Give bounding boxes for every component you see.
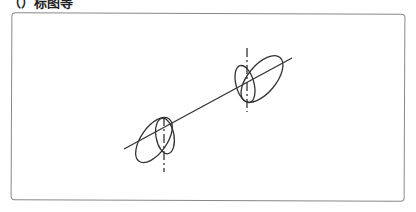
left-large-ellipse — [128, 111, 179, 169]
right-large-ellipse — [233, 49, 290, 110]
inclined-axis-line — [124, 58, 292, 149]
diagram-canvas — [0, 0, 416, 212]
